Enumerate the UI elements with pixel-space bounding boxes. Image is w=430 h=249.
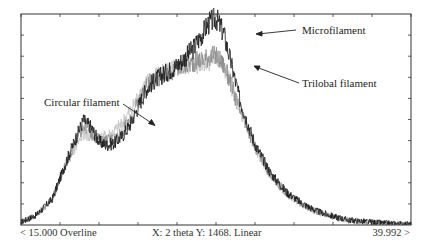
- label-circular-filament: Circular filament: [44, 96, 119, 108]
- circular-arrowhead: [149, 120, 156, 126]
- curve-microfilament: [21, 8, 411, 224]
- curve-trilobal-filament: [21, 46, 411, 225]
- footer-axis-info: X: 2 theta Y: 1468. Linear: [152, 227, 261, 238]
- xrd-chart: [0, 0, 430, 249]
- trilobal-arrow: [256, 67, 299, 83]
- axis-ticks: [21, 14, 411, 225]
- microfilament-arrowhead: [256, 32, 262, 37]
- plot-frame: [21, 14, 411, 225]
- footer-x-start: < 15.000 Overline: [20, 227, 97, 238]
- label-microfilament: Microfilament: [302, 24, 366, 36]
- footer-x-end: 39.992 >: [373, 227, 410, 238]
- label-trilobal-filament: Trilobal filament: [302, 77, 376, 89]
- microfilament-arrow: [258, 30, 296, 34]
- trilobal-arrowhead: [254, 66, 260, 71]
- diffraction-curves: [21, 8, 411, 224]
